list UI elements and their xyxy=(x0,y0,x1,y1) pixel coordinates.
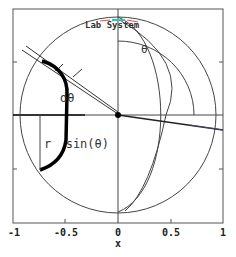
x-tick-label: 0.5 xyxy=(162,227,180,238)
x-axis-label: x xyxy=(115,238,121,249)
origin-point xyxy=(115,112,121,118)
x-tick-label: -0.5 xyxy=(54,227,78,238)
plot-area xyxy=(0,0,236,257)
x-tick-label: 1 xyxy=(220,227,226,238)
x-tick-label: 0 xyxy=(115,227,121,238)
theta-arc xyxy=(118,41,194,115)
chart-title: Lab System xyxy=(85,20,139,30)
dtheta-label: dθ xyxy=(60,91,74,105)
beam-line-color xyxy=(190,125,223,130)
theta-label: θ xyxy=(141,43,148,56)
x-tick-label: -1 xyxy=(8,227,20,238)
rsin-label: r sin(θ) xyxy=(44,137,109,151)
arrow-1 xyxy=(73,69,82,77)
